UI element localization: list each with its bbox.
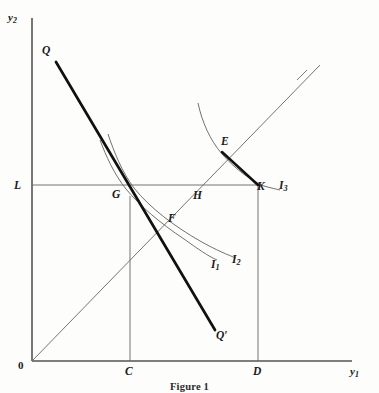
curve-label-I1-subscript: 1	[215, 263, 219, 272]
x-axis-label-subscript: 1	[355, 370, 359, 379]
curve-label-I2: I2	[232, 254, 241, 268]
budget-segment-EK	[222, 152, 258, 185]
budget-line-QQprime	[56, 62, 215, 330]
point-label-Q: Q	[42, 45, 50, 57]
indifference-curve-I3	[198, 103, 280, 190]
budget-line-group	[56, 62, 258, 330]
curve-label-I3: I3	[279, 180, 288, 194]
figure-caption: Figure 1	[0, 381, 379, 392]
axis-mark-C: C	[125, 366, 133, 378]
point-label-F: F	[168, 213, 176, 225]
point-label-E: E	[221, 136, 229, 148]
forty-five-degree-line-group	[32, 65, 320, 361]
point-label-G: G	[112, 189, 120, 201]
y-axis-label: y2	[8, 12, 17, 25]
curve-label-I2-subscript: 2	[236, 258, 240, 267]
axes-group	[32, 18, 352, 361]
origin-label: 0	[18, 360, 24, 371]
forty-five-degree-line	[32, 65, 320, 361]
y-axis-label-subscript: 2	[13, 16, 17, 25]
figure-container: y2 y1 0 L C D Q Q′ G F H E K I1 I2 I3 Fi…	[0, 0, 379, 393]
point-label-H: H	[193, 190, 202, 202]
point-label-Q-prime: Q′	[216, 330, 228, 342]
figure-canvas	[0, 0, 379, 393]
axis-mark-D: D	[253, 366, 261, 378]
x-axis-label: y1	[350, 366, 359, 379]
curve-label-I1: I1	[211, 259, 220, 273]
point-label-K: K	[257, 181, 265, 193]
curve-label-I3-subscript: 3	[283, 184, 287, 193]
prime-mark: ′	[224, 329, 227, 341]
ray-tick-icon	[297, 70, 307, 80]
axis-mark-L: L	[14, 180, 21, 192]
indifference-curve-I2	[108, 134, 236, 258]
